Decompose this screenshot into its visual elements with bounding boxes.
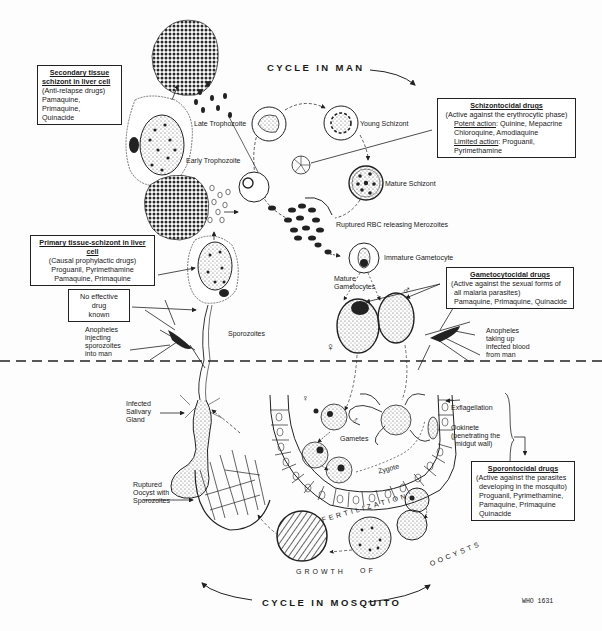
schizontocidal-drug-box: Schizontocidal drugs (Active against the… xyxy=(437,98,576,158)
sporozoites-label: Sporozoites xyxy=(228,330,265,339)
no-effective-drug-line-1: No effective drug xyxy=(73,292,125,310)
sporontocidal-title: Sporontocidal drugs xyxy=(476,464,570,473)
schizontocidal-subtitle: (Active against the erythrocytic phase) xyxy=(442,110,571,119)
early-trophozoite-label: Early Trophozoite xyxy=(186,157,240,166)
secondary-tissue-title: Secondary tissue xyxy=(42,68,117,77)
gametocytocidal-title: Gametocytocidal drugs xyxy=(451,270,569,279)
gametes-label: Gametes xyxy=(340,435,368,444)
potent-action-drugs: : Quinine, Mepacrine xyxy=(496,119,562,128)
gametocytocidal-drug-box: Gametocytocidal drugs (Active against th… xyxy=(446,267,574,309)
potent-action-label: Potent action xyxy=(454,119,496,128)
secondary-tissue-drug-box: Secondary tissue schizont in liver cell … xyxy=(37,65,122,125)
primary-tissue-title: Primary tissue-schizont in liver cell xyxy=(35,238,150,256)
female-symbol-lower: ♀ xyxy=(302,393,309,403)
primary-tissue-drug-box: Primary tissue-schizont in liver cell (C… xyxy=(30,235,155,286)
growth-label: GROWTH xyxy=(296,568,346,575)
mature-gametocytes-label-2: Gametocytes xyxy=(334,283,375,292)
limited-action-drugs-2: Pyrimethamine xyxy=(442,146,571,155)
primary-tissue-subtitle: (Causal prophylactic drugs) xyxy=(35,256,150,265)
immature-gametocyte-label: Immature Gametocyte xyxy=(384,254,453,263)
cycle-in-mosquito-heading: CYCLE IN MOSQUITO xyxy=(262,597,401,608)
no-effective-drug-line-2: known xyxy=(73,310,125,319)
limited-action-label: Limited action xyxy=(454,137,498,146)
secondary-tissue-drugs: Pamaquine, Primaquine, xyxy=(42,95,117,113)
sporontocidal-drug-box: Sporontocidal drugs (Active against the … xyxy=(471,461,575,521)
ookinete-label-3: midgut wall) xyxy=(455,440,492,449)
no-effective-drug-box: No effective drug known xyxy=(68,289,130,322)
gametocytocidal-subtitle-2: all malaria parasites) xyxy=(451,288,569,297)
mature-schizont-label: Mature Schizont xyxy=(385,180,436,189)
anopheles-taking-label-4: from man xyxy=(486,351,516,360)
late-trophozoite-label: Late Trophozoite xyxy=(194,120,246,129)
sporontocidal-drugs-3: Quinacide xyxy=(476,509,570,518)
young-schizont-label: Young Schizont xyxy=(360,120,408,129)
potent-action-drugs-2: Chloroquine, Amodiaquine xyxy=(442,128,571,137)
salivary-gland-label-3: Gland xyxy=(126,416,145,425)
figure-reference: WHO 1631 xyxy=(522,598,553,605)
cycle-in-man-heading: CYCLE IN MAN xyxy=(267,62,364,73)
limited-action-drugs: : Proguanil, xyxy=(498,137,534,146)
secondary-tissue-drugs-2: Quinacide xyxy=(42,113,117,122)
of-label: OF xyxy=(360,567,376,574)
male-symbol-lower: ♂ xyxy=(352,415,359,425)
secondary-tissue-subtitle: (Anti-relapse drugs) xyxy=(42,86,117,95)
male-symbol-upper: ♂ xyxy=(402,283,411,297)
ruptured-oocyst-label-3: Sporozoites xyxy=(133,497,170,506)
exflagellation-label: Exflagellation xyxy=(451,404,493,413)
primary-tissue-drugs: Proguanil, Pyrimethamine xyxy=(35,265,150,274)
sporontocidal-drugs-2: Pamaquine, Primaquine xyxy=(476,500,570,509)
sporontocidal-subtitle: (Active against the parasites xyxy=(476,473,570,482)
schizontocidal-title: Schizontocidal drugs xyxy=(442,101,571,110)
gametocytocidal-subtitle: (Active against the sexual forms of xyxy=(451,279,569,288)
female-symbol-upper: ♀ xyxy=(326,340,335,354)
anopheles-injecting-label-4: into man xyxy=(85,350,112,359)
sporontocidal-subtitle-2: developing in the mosquito) xyxy=(476,482,570,491)
ruptured-rbc-label: Ruptured RBC releasing Merozoites xyxy=(336,221,448,230)
sporontocidal-drugs: Proguanil, Pyrimethamine, xyxy=(476,491,570,500)
gametocytocidal-drugs: Pamaquine, Primaquine, Quinacide xyxy=(451,297,569,306)
secondary-tissue-title-2: schizont in liver cell xyxy=(42,77,117,86)
primary-tissue-drugs-2: Pamaquine, Primaquine xyxy=(35,274,150,283)
